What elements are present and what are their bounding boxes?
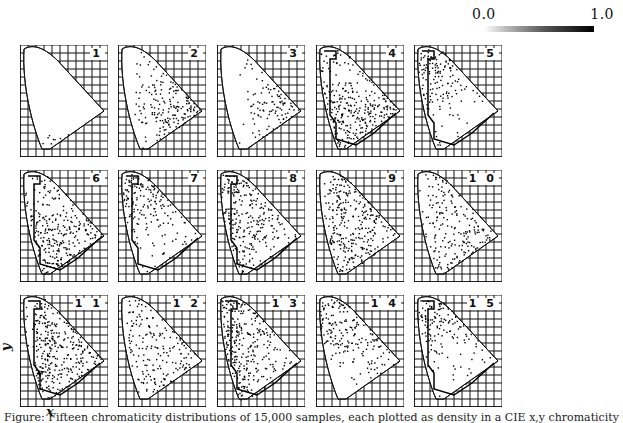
colorbar: 0.0 1.0 (470, 6, 620, 36)
panel-number: 9 (386, 173, 401, 185)
chromaticity-panel: 7 (118, 170, 206, 282)
panel-number: 8 (287, 173, 302, 185)
panel-number: 1 1 (73, 298, 105, 310)
chromaticity-plot (118, 295, 206, 407)
chromaticity-panel: 9 (316, 170, 404, 282)
figure-caption: Figure: Fifteen chromaticity distributio… (4, 411, 623, 423)
colorbar-max-label: 1.0 (590, 6, 614, 22)
y-axis-label: y (0, 344, 13, 352)
chromaticity-plot (118, 45, 206, 157)
chromaticity-panel: 5 (414, 45, 502, 157)
panel-number: 1 4 (369, 298, 401, 310)
panel-number: 1 3 (270, 298, 302, 310)
chromaticity-plot (217, 170, 305, 282)
panel-number: 7 (188, 173, 203, 185)
colorbar-min-label: 0.0 (472, 6, 496, 22)
panel-number: 2 (188, 48, 203, 60)
chromaticity-plot (217, 45, 305, 157)
chromaticity-panel: 1 0 (414, 170, 502, 282)
chromaticity-plot (20, 170, 108, 282)
chromaticity-plot (316, 170, 404, 282)
chromaticity-panel: 1 2 (118, 295, 206, 407)
panel-number: 1 5 (467, 298, 499, 310)
chromaticity-plot (20, 45, 108, 157)
chromaticity-panel: 3 (217, 45, 305, 157)
chromaticity-plot (414, 45, 502, 157)
chromaticity-panel: 1 (20, 45, 108, 157)
chromaticity-panel: 1 3 (217, 295, 305, 407)
chromaticity-panel: 6 (20, 170, 108, 282)
panel-number: 3 (287, 48, 302, 60)
panel-number: 6 (90, 173, 105, 185)
chromaticity-plot (316, 295, 404, 407)
chromaticity-plot (414, 170, 502, 282)
chromaticity-panel: 4 (316, 45, 404, 157)
chromaticity-panel: 8 (217, 170, 305, 282)
panel-number: 4 (386, 48, 401, 60)
panel-number: 5 (484, 48, 499, 60)
chromaticity-panel: 1 5 (414, 295, 502, 407)
panel-number: 1 (90, 48, 105, 60)
chromaticity-plot (217, 295, 305, 407)
chromaticity-panel: 1 1 (20, 295, 108, 407)
chromaticity-plot (414, 295, 502, 407)
chromaticity-plot (316, 45, 404, 157)
chromaticity-panel: 2 (118, 45, 206, 157)
panel-number: 1 2 (171, 298, 203, 310)
colorbar-gradient (484, 26, 594, 32)
chromaticity-plot (20, 295, 108, 407)
panel-number: 1 0 (467, 173, 499, 185)
chromaticity-panel: 1 4 (316, 295, 404, 407)
chromaticity-plot (118, 170, 206, 282)
